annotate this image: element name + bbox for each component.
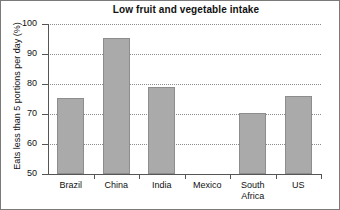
x-axis-category-label: India <box>139 180 185 191</box>
chart-figure: Low fruit and vegetable intake Eats less… <box>0 0 340 210</box>
y-axis-tick-mark <box>42 84 48 85</box>
y-axis-tick-mark <box>42 24 48 25</box>
x-axis-category-label: Brazil <box>48 180 94 191</box>
y-axis-title: Eats less than 5 portions per day (%) <box>12 16 22 176</box>
bar <box>239 113 266 175</box>
bar <box>103 38 130 175</box>
x-axis-tick-mark <box>230 174 231 179</box>
y-axis-tick-label: 50 <box>11 168 37 178</box>
gridline <box>48 114 321 115</box>
bar <box>285 96 312 174</box>
x-axis-category-label: US <box>276 180 322 191</box>
y-axis-tick-label: 70 <box>11 108 37 118</box>
y-axis-tick-label: 100 <box>11 18 37 28</box>
gridline <box>48 84 321 85</box>
gridline <box>48 144 321 145</box>
x-axis-tick-mark <box>139 174 140 179</box>
y-axis-tick-label: 90 <box>11 48 37 58</box>
x-axis-category-label: Mexico <box>185 180 231 191</box>
plot-area <box>48 24 321 174</box>
y-axis-tick-label: 80 <box>11 78 37 88</box>
x-axis-category-label: South Africa <box>230 180 276 202</box>
x-axis-tick-mark <box>185 174 186 179</box>
x-axis-tick-mark <box>321 174 322 179</box>
gridline <box>48 54 321 55</box>
y-axis-tick-mark <box>42 174 48 175</box>
chart-title: Low fruit and vegetable intake <box>46 4 326 15</box>
gridline <box>48 24 321 25</box>
y-axis-line <box>48 24 49 175</box>
x-axis-tick-mark <box>276 174 277 179</box>
bar <box>57 98 84 175</box>
y-axis-tick-mark <box>42 54 48 55</box>
x-axis-tick-mark <box>94 174 95 179</box>
y-axis-tick-label: 60 <box>11 138 37 148</box>
y-axis-tick-mark <box>42 144 48 145</box>
y-axis-tick-mark <box>42 114 48 115</box>
bar <box>148 87 175 174</box>
x-axis-category-label: China <box>94 180 140 191</box>
